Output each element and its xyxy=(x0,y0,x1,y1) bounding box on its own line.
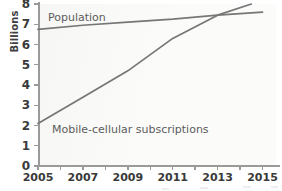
x-axis-tick-label: 2007 xyxy=(63,172,103,183)
y-axis-tick-label: 3 xyxy=(8,99,30,111)
y-axis-tick-label: 2 xyxy=(8,120,30,132)
scan-artefact xyxy=(243,186,251,188)
x-axis-tick-label: 2015 xyxy=(243,172,282,183)
x-axis-tick xyxy=(37,166,38,170)
scan-artefact xyxy=(271,186,278,188)
series-container xyxy=(38,4,276,166)
scan-artefact xyxy=(200,187,208,189)
x-axis-tick-label: 2009 xyxy=(108,172,148,183)
x-axis-tick xyxy=(150,166,151,170)
x-axis-tick-label: 2013 xyxy=(198,172,238,183)
x-axis-tick xyxy=(60,166,61,170)
series-label-mobile-cellular-subscriptions: Mobile-cellular subscriptions xyxy=(52,124,209,135)
x-axis-tick xyxy=(127,166,128,170)
x-axis-tick-label: 2011 xyxy=(153,172,193,183)
chart-figure: Billions 012345678 200520072009201120132… xyxy=(0,0,282,191)
y-axis-tick-label: 6 xyxy=(8,39,30,51)
y-axis-tick-label: 4 xyxy=(8,79,30,91)
x-axis-tick xyxy=(262,166,263,170)
x-axis-tick xyxy=(239,166,240,170)
x-axis-tick xyxy=(194,166,195,170)
x-axis-tick-label: 2005 xyxy=(18,172,58,183)
series-label-population: Population xyxy=(48,12,106,23)
x-axis-tick xyxy=(217,166,218,170)
y-axis-tick-label: 5 xyxy=(8,59,30,71)
y-axis-tick-label: 8 xyxy=(8,0,30,10)
x-axis-tick xyxy=(105,166,106,170)
x-axis-tick xyxy=(172,166,173,170)
scan-artefact xyxy=(162,188,169,190)
y-axis-tick-label: 7 xyxy=(8,18,30,30)
x-axis-tick xyxy=(82,166,83,170)
y-axis-tick-label: 1 xyxy=(8,140,30,152)
y-axis-title: Billions xyxy=(9,2,20,62)
